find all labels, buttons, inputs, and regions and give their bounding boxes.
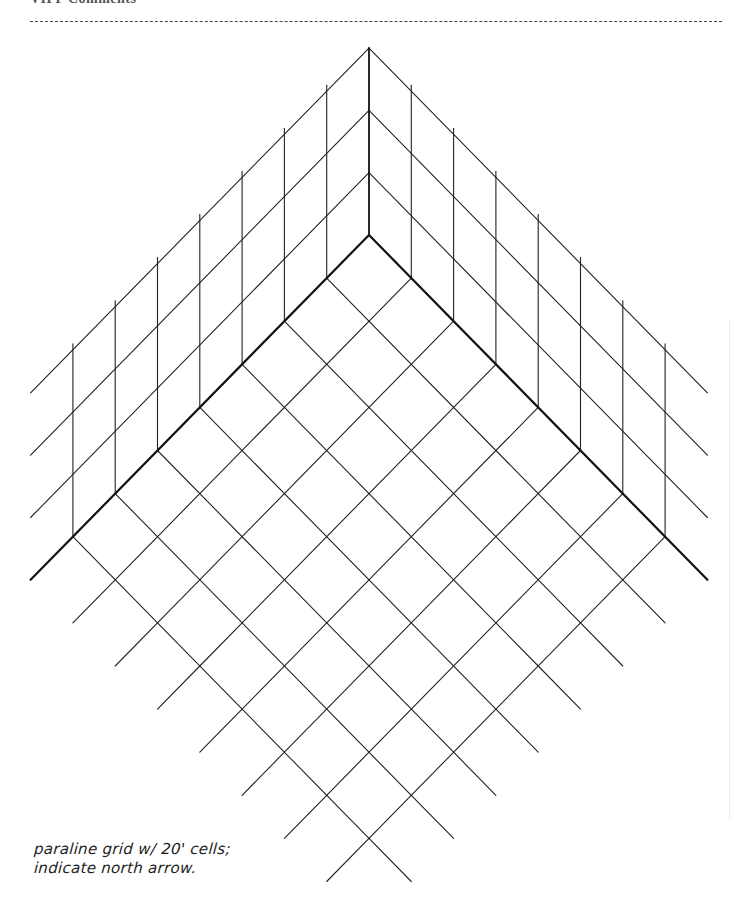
floor-line-sw [284,451,580,753]
floor-line-se [284,321,580,623]
corner-edges [31,48,708,580]
floor-stub-se [623,580,665,623]
paraline-grid-drawing [0,0,731,908]
floor-line-se [242,364,538,666]
floor-stub-sw [115,623,157,666]
floor-stub-se [369,838,411,881]
floor-line-sw [158,321,454,623]
left-wall-grid [31,48,369,537]
floor-stub-se [454,752,496,795]
handwritten-note-line-2: indicate north arrow. [33,859,197,877]
floor-stub-se [411,795,453,838]
floor-line-sw [242,407,538,709]
floor-stub-sw [242,752,284,795]
floor-line-se [158,451,454,753]
handwritten-note-line-1: paraline grid w/ 20' cells; [33,840,231,858]
floor-line-se [115,494,411,796]
floor-line-se [73,537,369,839]
floor-stub-sw [284,795,326,838]
right-wall-grid [369,48,707,537]
floor-stub-se [538,666,580,709]
floor-stub-sw [158,666,200,709]
floor-line-sw [327,494,623,796]
floor-stub-se [581,623,623,666]
floor-stub-se [496,709,538,752]
floor-stub-sw [73,580,115,623]
floor-line-sw [200,364,496,666]
floor-line-se [200,407,496,709]
floor-grid [73,278,665,881]
floor-stub-sw [200,709,242,752]
floor-stub-sw [327,838,369,881]
floor-line-sw [369,537,665,839]
